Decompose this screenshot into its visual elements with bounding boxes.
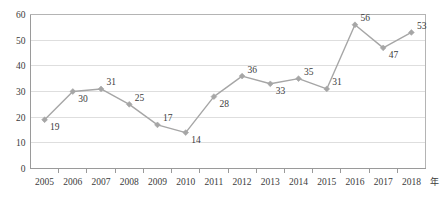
x-axis-tick-label: 2009 bbox=[148, 177, 167, 187]
y-axis-tick-label: 40 bbox=[16, 61, 26, 71]
data-point-label: 30 bbox=[78, 94, 88, 104]
data-point-label: 19 bbox=[50, 122, 60, 132]
data-point-marker[interactable] bbox=[324, 86, 330, 92]
x-axis-tick-label: 2005 bbox=[35, 177, 54, 187]
x-axis-tick-label: 2007 bbox=[92, 177, 111, 187]
y-axis-tick-label: 20 bbox=[16, 113, 26, 123]
data-point-label: 17 bbox=[163, 113, 173, 123]
data-point-marker[interactable] bbox=[98, 86, 104, 92]
x-axis-tick-label: 2013 bbox=[261, 177, 280, 187]
x-axis-tick-label: 2014 bbox=[289, 177, 308, 187]
data-point-marker[interactable] bbox=[408, 30, 414, 36]
x-axis-tick-label: 2010 bbox=[176, 177, 195, 187]
x-axis-tick-label: 2018 bbox=[402, 177, 421, 187]
data-point-label: 33 bbox=[276, 86, 286, 96]
y-axis-tick-label: 10 bbox=[16, 138, 26, 148]
data-point-label: 36 bbox=[248, 65, 258, 75]
y-axis-tick-label: 60 bbox=[16, 10, 26, 20]
data-point-label: 35 bbox=[304, 67, 314, 77]
data-point-marker[interactable] bbox=[267, 81, 273, 87]
data-point-label: 31 bbox=[107, 77, 117, 87]
x-axis-tick-label: 2006 bbox=[63, 177, 82, 187]
data-point-label: 56 bbox=[360, 13, 370, 23]
y-axis-tick-label: 0 bbox=[21, 164, 26, 174]
x-axis-tick-label: 2017 bbox=[374, 177, 393, 187]
data-point-label: 31 bbox=[332, 77, 342, 87]
data-point-label: 14 bbox=[191, 135, 201, 145]
data-point-label: 53 bbox=[417, 21, 427, 31]
data-point-label: 28 bbox=[219, 99, 229, 109]
data-point-label: 47 bbox=[389, 50, 399, 60]
x-axis-tick-label: 2008 bbox=[120, 177, 139, 187]
x-axis-tick-label: 2016 bbox=[345, 177, 364, 187]
y-axis-tick-label: 50 bbox=[16, 36, 26, 46]
data-point-label: 25 bbox=[135, 93, 145, 103]
x-axis-tick-label: 2012 bbox=[233, 177, 252, 187]
line-chart-figure: 0102030405060200520062007200820092010201… bbox=[0, 0, 448, 206]
y-axis-tick-label: 30 bbox=[16, 87, 26, 97]
x-axis-unit-label: 年 bbox=[430, 176, 439, 187]
x-axis-tick-label: 2015 bbox=[317, 177, 336, 187]
chart-canvas: 0102030405060200520062007200820092010201… bbox=[0, 0, 448, 206]
x-axis-tick-label: 2011 bbox=[205, 177, 224, 187]
series-line bbox=[45, 25, 412, 133]
data-point-marker[interactable] bbox=[296, 76, 302, 82]
